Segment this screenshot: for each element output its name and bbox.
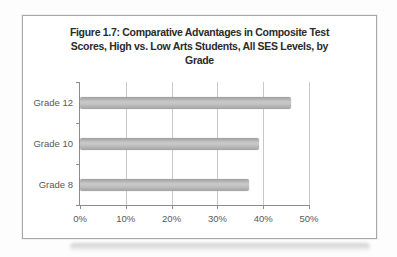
figure-title: Figure 1.7: Comparative Advantages in Co… [23, 25, 376, 67]
x-axis-tick-10 [126, 205, 127, 209]
x-tick-label-0: 0% [73, 213, 87, 224]
bar-grade-8 [80, 179, 249, 191]
gridline-50 [309, 82, 310, 205]
category-label-grade-8: Grade 8 [39, 179, 73, 190]
figure-frame: Figure 1.7: Comparative Advantages in Co… [22, 15, 377, 239]
plot-area: Grade 12 Grade 10 Grade 8 0% 10% 20% 30%… [79, 82, 309, 206]
figure-title-line-3: Grade [23, 53, 376, 67]
x-tick-label-20: 20% [162, 213, 181, 224]
bar-grade-12 [80, 97, 291, 109]
x-axis-tick-30 [217, 205, 218, 209]
x-tick-label-10: 10% [116, 213, 135, 224]
bar-row-grade-12: Grade 12 [80, 82, 309, 123]
x-axis-tick-0 [80, 205, 81, 209]
category-label-grade-10: Grade 10 [33, 138, 73, 149]
bar-grade-10 [80, 138, 259, 150]
x-axis-tick-20 [172, 205, 173, 209]
x-tick-label-30: 30% [208, 213, 227, 224]
category-label-grade-12: Grade 12 [33, 97, 73, 108]
y-axis-tick-3 [76, 205, 80, 206]
figure-title-line-1: Figure 1.7: Comparative Advantages in Co… [23, 25, 376, 39]
figure-title-line-2: Scores, High vs. Low Arts Students, All … [23, 39, 376, 53]
bar-rows: Grade 12 Grade 10 Grade 8 [80, 82, 309, 205]
x-axis-tick-40 [263, 205, 264, 209]
x-tick-label-50: 50% [299, 213, 318, 224]
bar-row-grade-8: Grade 8 [80, 164, 309, 205]
bar-row-grade-10: Grade 10 [80, 123, 309, 164]
x-axis-tick-50 [309, 205, 310, 209]
x-tick-label-40: 40% [254, 213, 273, 224]
scan-shadow-artifact [70, 243, 370, 251]
scanned-page: Figure 1.7: Comparative Advantages in Co… [0, 0, 397, 257]
